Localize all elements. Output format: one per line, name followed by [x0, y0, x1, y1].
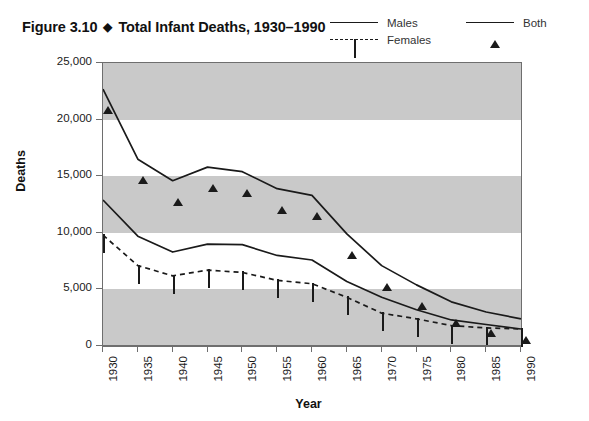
filled-triangle-icon: [490, 23, 500, 48]
legend-swatch-males: [330, 16, 378, 30]
filled-triangle-icon: [312, 195, 322, 220]
filled-triangle-icon: [208, 167, 218, 192]
figure-title-text: Total Infant Deaths, 1930–1990: [118, 19, 325, 35]
filled-triangle-icon: [103, 89, 113, 114]
legend-item-males: Males: [330, 15, 418, 30]
x-axis-tick-label: 1940: [177, 356, 189, 382]
x-axis-tick: [276, 345, 277, 352]
open-square-icon: [242, 271, 244, 290]
x-axis-title: Year: [0, 397, 589, 411]
y-axis: [102, 62, 103, 346]
y-axis-title: Deaths: [14, 150, 28, 192]
y-axis-tick: [96, 119, 103, 120]
figure-root: Figure 3.10◆Total Infant Deaths, 1930–19…: [0, 0, 589, 421]
filled-triangle-icon: [382, 266, 392, 291]
open-square-icon: [103, 234, 105, 253]
data-point-females: [486, 328, 488, 346]
y-axis-tick-label: 5,000: [0, 281, 92, 293]
x-axis-tick-label: 1965: [351, 356, 363, 382]
x-axis-tick: [416, 345, 417, 352]
data-point-both: [208, 167, 218, 185]
data-point-females: [138, 266, 140, 284]
data-point-females: [347, 297, 349, 315]
legend-label-both: Both: [523, 17, 547, 29]
data-point-females: [277, 280, 279, 298]
data-point-both: [138, 159, 148, 177]
open-square-icon: [521, 328, 523, 347]
data-point-females: [103, 235, 105, 253]
data-point-both: [103, 89, 113, 107]
x-axis-tick-label: 1970: [386, 356, 398, 382]
x-axis-tick: [207, 345, 208, 352]
open-square-icon: [208, 269, 210, 288]
legend-label-males: Males: [387, 17, 418, 29]
data-point-both: [277, 189, 287, 207]
x-axis-tick: [137, 345, 138, 352]
data-point-females: [242, 272, 244, 290]
x-axis-tick-label: 1990: [525, 356, 537, 382]
data-point-females: [521, 329, 523, 347]
x-axis-tick-label: 1935: [142, 356, 154, 382]
y-axis-tick-label: 20,000: [0, 112, 92, 124]
x-axis-tick: [346, 345, 347, 352]
data-point-females: [451, 326, 453, 344]
data-point-both: [347, 234, 357, 252]
open-square-icon: [486, 327, 488, 346]
data-point-both: [173, 181, 183, 199]
data-point-females: [312, 284, 314, 302]
figure-title: Figure 3.10◆Total Infant Deaths, 1930–19…: [22, 19, 325, 35]
data-point-females: [208, 270, 210, 288]
x-axis-tick: [381, 345, 382, 352]
x-axis-tick: [102, 345, 103, 352]
x-axis-tick: [520, 345, 521, 352]
chart-legend: Males Females Both: [330, 12, 585, 52]
data-point-females: [382, 313, 384, 331]
x-axis-tick-label: 1985: [490, 356, 502, 382]
data-point-both: [382, 266, 392, 284]
open-square-icon: [173, 275, 175, 294]
y-axis-tick: [96, 62, 103, 63]
filled-triangle-icon: [138, 159, 148, 184]
data-point-both: [312, 195, 322, 213]
legend-label-females: Females: [387, 34, 431, 46]
x-axis-tick: [485, 345, 486, 352]
x-axis-tick-label: 1960: [316, 356, 328, 382]
x-axis-tick: [450, 345, 451, 352]
filled-triangle-icon: [451, 302, 461, 327]
x-axis-tick-label: 1975: [421, 356, 433, 382]
legend-item-both: Both: [466, 15, 547, 30]
y-axis-tick-label: 0: [0, 338, 92, 350]
x-axis-tick-label: 1945: [212, 356, 224, 382]
filled-triangle-icon: [347, 234, 357, 259]
x-axis-tick-label: 1980: [455, 356, 467, 382]
y-axis-tick-label: 25,000: [0, 55, 92, 67]
data-point-females: [417, 319, 419, 337]
y-axis-tick-label: 10,000: [0, 225, 92, 237]
plot-area: [102, 62, 522, 347]
open-square-icon: [382, 312, 384, 331]
x-axis-tick: [241, 345, 242, 352]
legend-swatch-females: [330, 33, 378, 47]
filled-triangle-icon: [173, 181, 183, 206]
filled-triangle-icon: [417, 285, 427, 310]
data-point-both: [451, 302, 461, 320]
data-point-both: [242, 172, 252, 190]
open-square-icon: [354, 39, 356, 58]
open-square-icon: [138, 265, 140, 284]
diamond-icon: ◆: [104, 20, 113, 34]
y-axis-tick: [96, 175, 103, 176]
x-axis-tick-label: 1930: [107, 356, 119, 382]
legend-item-females: Females: [330, 32, 431, 47]
open-square-icon: [417, 318, 419, 337]
x-axis-title-text: Year: [295, 397, 321, 411]
x-axis-tick-label: 1950: [246, 356, 258, 382]
y-axis-tick: [96, 232, 103, 233]
x-axis-tick-label: 1955: [281, 356, 293, 382]
data-point-females: [173, 276, 175, 294]
open-square-icon: [277, 279, 279, 298]
legend-swatch-both: [466, 16, 514, 30]
open-square-icon: [451, 325, 453, 344]
filled-triangle-icon: [277, 189, 287, 214]
figure-number: Figure 3.10: [22, 19, 97, 35]
x-axis-tick: [311, 345, 312, 352]
